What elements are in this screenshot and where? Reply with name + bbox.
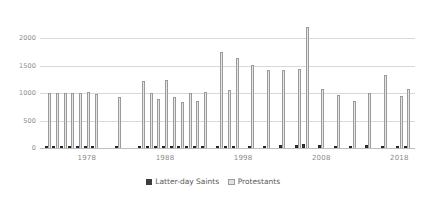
- bar-latter-day-saints-1986: [146, 146, 149, 148]
- bar-protestants-2008: [321, 89, 324, 148]
- bar-latter-day-saints-2010: [334, 146, 337, 148]
- legend-swatch-icon: [228, 179, 235, 186]
- bar-latter-day-saints-1974: [52, 146, 55, 148]
- legend-item-protestants[interactable]: Protestants: [228, 178, 280, 186]
- y-tick-label: 2000: [2, 35, 36, 42]
- bar-latter-day-saints-1990: [177, 146, 180, 148]
- bar-protestants-2014: [368, 93, 371, 148]
- x-tick-label: 1998: [234, 155, 253, 162]
- bar-protestants-1985: [142, 81, 145, 148]
- bar-latter-day-saints-1979: [91, 146, 94, 148]
- bar-protestants-2012: [353, 101, 356, 148]
- bar-protestants-2019: [407, 89, 410, 148]
- gridline-1500: [40, 66, 415, 67]
- bar-latter-day-saints-1995: [216, 146, 219, 148]
- x-tick-label: 1988: [156, 155, 175, 162]
- bar-protestants-1977: [79, 93, 82, 148]
- bar-protestants-2005: [298, 69, 301, 148]
- bar-latter-day-saints-1985: [138, 146, 141, 148]
- bar-latter-day-saints-1973: [45, 146, 48, 148]
- bar-protestants-1976: [71, 93, 74, 148]
- bar-latter-day-saints-1988: [162, 146, 165, 148]
- bar-latter-day-saints-2012: [349, 146, 352, 148]
- x-tick-label: 1978: [78, 155, 97, 162]
- bar-protestants-1986: [150, 93, 153, 148]
- bar-latter-day-saints-1977: [76, 146, 79, 148]
- bar-protestants-1990: [181, 102, 184, 148]
- bar-protestants-2003: [282, 70, 285, 148]
- plot-area: [40, 22, 415, 148]
- chart-legend: Latter-day SaintsProtestants: [0, 178, 426, 186]
- bar-latter-day-saints-2008: [318, 145, 321, 148]
- bar-latter-day-saints-2001: [263, 146, 266, 148]
- bar-protestants-1975: [64, 93, 67, 148]
- bar-protestants-1991: [189, 93, 192, 148]
- bar-latter-day-saints-1978: [84, 146, 87, 148]
- bar-protestants-2018: [400, 96, 403, 148]
- bar-protestants-1974: [56, 93, 59, 148]
- bar-protestants-1989: [173, 97, 176, 148]
- bar-protestants-2010: [337, 95, 340, 148]
- bar-latter-day-saints-2003: [279, 145, 282, 148]
- bar-latter-day-saints-2016: [381, 146, 384, 148]
- gridline-0: [40, 148, 415, 149]
- bar-latter-day-saints-1989: [170, 146, 173, 148]
- bar-latter-day-saints-1999: [248, 146, 251, 148]
- x-tick-label: 2008: [312, 155, 331, 162]
- bar-latter-day-saints-1975: [60, 146, 63, 148]
- bar-protestants-1979: [95, 94, 98, 148]
- bar-latter-day-saints-1982: [115, 146, 118, 148]
- bar-protestants-2016: [384, 75, 387, 148]
- bar-latter-day-saints-2018: [396, 146, 399, 148]
- bar-protestants-1999: [251, 65, 254, 148]
- x-axis: 19781988199820082018: [40, 152, 415, 166]
- bar-latter-day-saints-2005: [295, 145, 298, 148]
- bar-protestants-1997: [236, 58, 239, 148]
- legend-swatch-icon: [146, 179, 153, 186]
- y-axis: 0500100015002000: [0, 22, 36, 148]
- bar-protestants-2006: [306, 27, 309, 148]
- bar-latter-day-saints-1993: [201, 146, 204, 148]
- bar-latter-day-saints-1997: [232, 146, 235, 148]
- bar-latter-day-saints-2014: [365, 145, 368, 148]
- bar-latter-day-saints-1991: [185, 146, 188, 148]
- bar-protestants-2001: [267, 70, 270, 148]
- legend-item-latter-day-saints[interactable]: Latter-day Saints: [146, 178, 219, 186]
- bars-layer: [40, 22, 415, 148]
- legend-label: Latter-day Saints: [155, 178, 219, 186]
- bar-chart: 0500100015002000 19781988199820082018 La…: [0, 0, 426, 207]
- y-tick-label: 0: [2, 145, 36, 152]
- gridline-2000: [40, 38, 415, 39]
- legend-label: Protestants: [238, 178, 281, 186]
- bar-protestants-1982: [118, 97, 121, 148]
- y-tick-label: 1000: [2, 90, 36, 97]
- bar-protestants-1987: [157, 99, 160, 148]
- bar-protestants-1988: [165, 80, 168, 148]
- y-tick-label: 1500: [2, 63, 36, 70]
- bar-latter-day-saints-1976: [68, 146, 71, 148]
- bar-protestants-1973: [48, 93, 51, 148]
- bar-latter-day-saints-1996: [224, 146, 227, 148]
- bar-latter-day-saints-1987: [154, 146, 157, 148]
- x-tick-label: 2018: [390, 155, 409, 162]
- bar-latter-day-saints-2019: [404, 146, 407, 148]
- bar-latter-day-saints-2006: [302, 144, 305, 148]
- bar-protestants-1992: [196, 101, 199, 148]
- bar-protestants-1995: [220, 52, 223, 148]
- bar-protestants-1978: [87, 92, 90, 148]
- bar-protestants-1993: [204, 92, 207, 148]
- y-tick-label: 500: [2, 117, 36, 124]
- bar-protestants-1996: [228, 90, 231, 148]
- bar-latter-day-saints-1992: [193, 146, 196, 148]
